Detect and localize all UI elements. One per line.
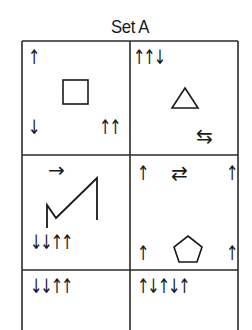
right-left-arrows-icon: ⇄	[171, 163, 188, 183]
arrow-group-icon: ↑↓↑↓↑	[137, 276, 189, 296]
arrow-group-icon: ↑↑↓	[133, 47, 164, 67]
zigzag-shape	[47, 178, 97, 228]
arrow-right-icon: →	[48, 160, 65, 180]
arrow-up-icon: ↑	[137, 163, 147, 183]
arrow-up-icon: ↑	[226, 163, 236, 183]
arrow-up-icon: ↑	[226, 243, 236, 263]
pentagon-shape	[174, 236, 202, 262]
arrow-group-icon: ↑↑	[99, 117, 120, 137]
arrow-up-icon: ↑	[28, 47, 38, 67]
square-shape	[63, 80, 88, 104]
arrow-group-icon: ↓↓↑↑	[30, 232, 71, 252]
arrow-group-icon: ↓↓↑↑	[30, 276, 71, 296]
arrow-up-icon: ↑	[137, 243, 147, 263]
triangle-shape	[172, 88, 198, 108]
arrow-down-icon: ↓	[28, 117, 38, 137]
left-right-arrows-icon: ⇆	[196, 126, 213, 146]
